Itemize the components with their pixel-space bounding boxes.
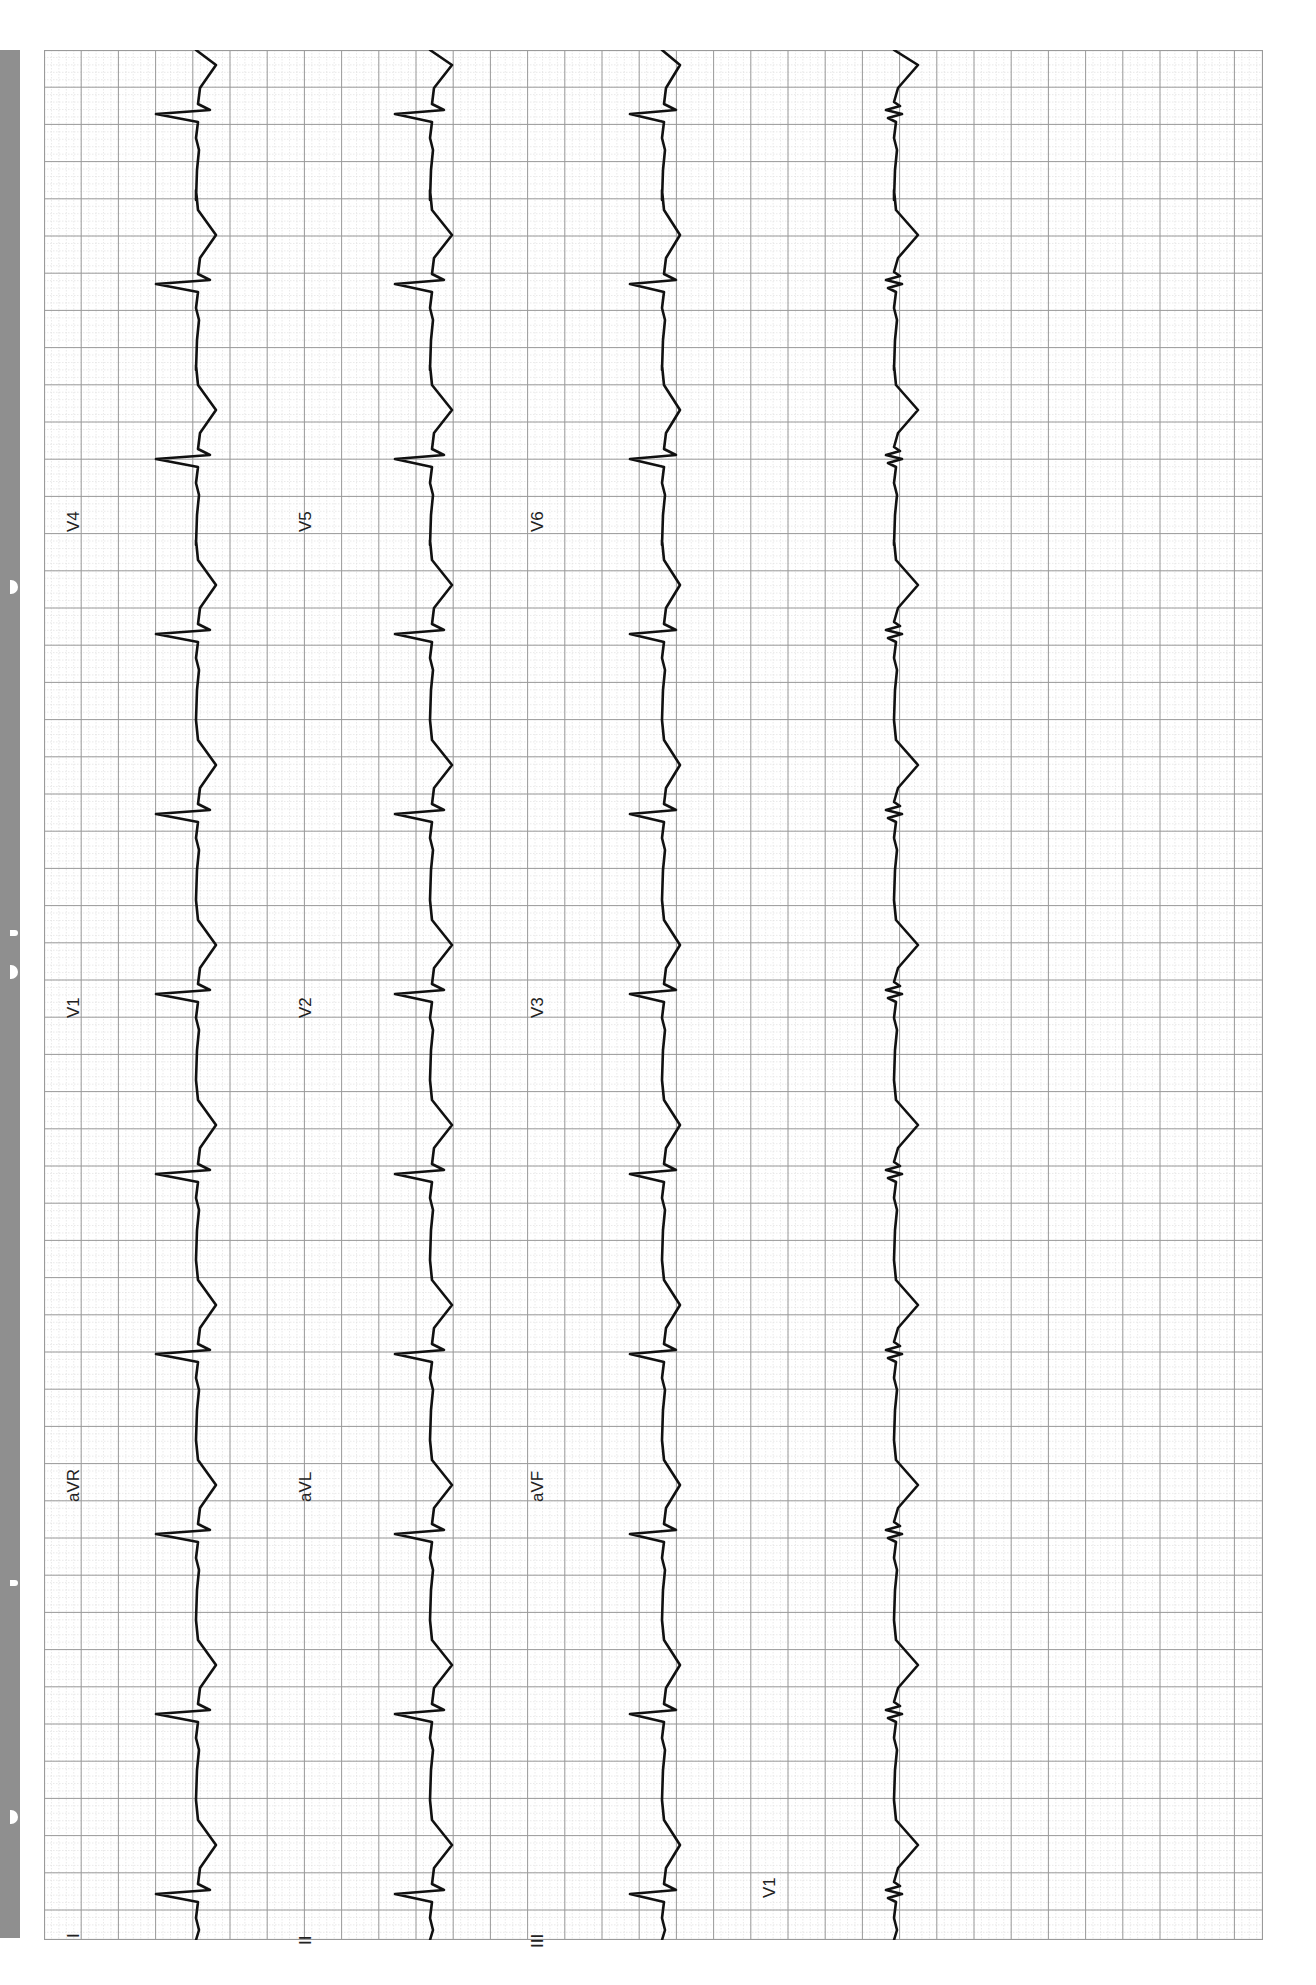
side-strip-text-fragment	[10, 930, 18, 936]
lead-label-V1-rhythm: V1	[760, 1877, 780, 1898]
lead-label-aVL: aVL	[296, 1472, 316, 1502]
side-strip-text-fragment	[10, 580, 18, 594]
lead-label-V5: V5	[296, 511, 316, 532]
lead-label-III: III	[528, 1934, 548, 1948]
lead-label-V6: V6	[528, 511, 548, 532]
side-binding-strip	[0, 50, 20, 1938]
ecg-chart	[44, 50, 1263, 1940]
side-strip-text-fragment	[10, 1810, 18, 1824]
lead-label-V4: V4	[64, 511, 84, 532]
lead-label-V1: V1	[64, 997, 84, 1018]
lead-label-V2: V2	[296, 997, 316, 1018]
side-strip-text-fragment	[10, 965, 18, 979]
lead-label-V3: V3	[528, 997, 548, 1018]
lead-label-I: I	[64, 1933, 84, 1938]
ecg-grid-sheet: I aVR V1 V4 II aVL V2 V5 III aVF V3 V6 V…	[44, 50, 1263, 1940]
side-strip-text-fragment	[10, 1580, 18, 1586]
lead-label-aVF: aVF	[528, 1471, 548, 1502]
lead-label-aVR: aVR	[64, 1469, 84, 1502]
lead-label-II: II	[296, 1936, 316, 1945]
